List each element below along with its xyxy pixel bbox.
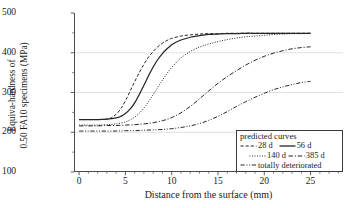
x-tick-label: 5: [110, 176, 140, 186]
legend-row: totally deteriorated: [240, 161, 340, 171]
y-axis-title-line1: Equiva-hardness of: [7, 6, 19, 186]
legend-row: 140 d385 d: [240, 151, 340, 161]
x-tick-label: 15: [203, 176, 233, 186]
x-tick-label: 25: [296, 176, 326, 186]
legend-title: predicted curves: [240, 132, 340, 141]
legend-line-sample: [240, 143, 257, 149]
legend-line-sample: [240, 162, 257, 168]
legend-label: 385 d: [305, 151, 326, 161]
x-tick-label: 0: [64, 176, 94, 186]
legend-label: totally deteriorated: [257, 161, 322, 171]
x-axis-title: Distance from the surface (mm): [74, 189, 343, 200]
y-axis-title-line2: 0.50 FA10 specimens (MPa): [18, 6, 30, 186]
legend-line-sample: [279, 143, 296, 149]
legend-line-sample: [249, 153, 266, 159]
legend-label: 140 d: [266, 151, 287, 161]
figure: 100200300400500 0510152025 Distance from…: [0, 0, 361, 208]
y-axis-title: Equiva-hardness of 0.50 FA10 specimens (…: [7, 6, 30, 186]
legend-entries: 28 d56 d140 d385 dtotally deteriorated: [240, 141, 340, 170]
x-tick-label: 20: [249, 176, 279, 186]
legend-label: 56 d: [296, 141, 313, 151]
x-tick-label: 10: [157, 176, 187, 186]
legend-label: 28 d: [257, 141, 274, 151]
legend-row: 28 d56 d: [240, 141, 340, 151]
legend-line-sample: [288, 153, 305, 159]
legend: predicted curves 28 d56 d140 d385 dtotal…: [236, 130, 343, 172]
